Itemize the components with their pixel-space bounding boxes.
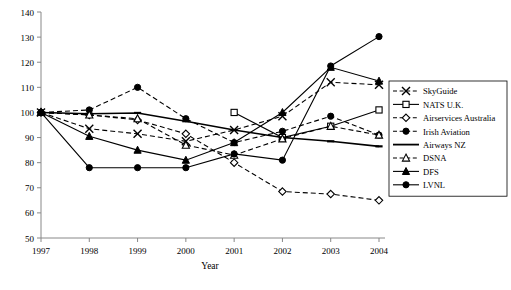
legend-label: Airways NZ [423,140,466,150]
chart-container: 5060708090100110120130140199719981999200… [0,0,511,290]
y-tick-label: 110 [21,83,35,93]
marker-diamond-open [327,190,334,197]
marker-circle-filled [403,128,409,134]
y-tick-label: 130 [21,33,35,43]
legend-label: NATS U.K. [423,100,463,110]
marker-diamond-open [279,188,286,195]
y-tick-label: 140 [21,8,35,18]
x-tick-label: 1999 [129,246,148,256]
legend-label: DFS [423,167,439,177]
legend-label: DSNA [423,153,447,163]
marker-circle-filled [328,113,334,119]
legend-box [389,81,507,196]
x-tick-label: 2002 [273,246,291,256]
legend-label: Airservices Australia [423,113,495,123]
x-tick-label: 2003 [322,246,341,256]
x-axis-title: Year [201,261,219,271]
marker-diamond-open [375,197,382,204]
x-tick-label: 1998 [80,246,99,256]
marker-circle-filled [183,165,189,171]
marker-circle-filled [403,182,409,188]
legend-label: SkyGuide [423,86,458,96]
x-tick-label: 2001 [225,246,243,256]
legend-item-skyguide[interactable]: SkyGuide [393,86,458,96]
marker-square-open [403,101,409,107]
marker-circle-filled [134,165,140,171]
marker-circle-filled [279,128,285,134]
line-chart: 5060708090100110120130140199719981999200… [0,0,511,290]
legend-label: Irish Aviation [423,127,471,137]
x-tick-label: 2000 [177,246,196,256]
marker-circle-filled [279,157,285,163]
y-tick-label: 70 [25,183,35,193]
marker-diamond-open [230,159,237,166]
marker-circle-filled [86,165,92,171]
marker-square-open [376,107,382,113]
marker-triangle-filled [86,132,93,139]
legend-label: LVNL [423,180,445,190]
marker-circle-filled [328,63,334,69]
marker-circle-filled [38,109,44,115]
marker-circle-filled [134,84,140,90]
y-tick-label: 80 [25,158,35,168]
y-tick-label: 90 [25,133,35,143]
y-tick-label: 100 [21,108,35,118]
marker-square-open [231,109,237,115]
marker-circle-filled [231,151,237,157]
marker-diamond-open [182,130,189,137]
y-tick-label: 50 [25,234,35,244]
x-tick-label: 1997 [32,246,51,256]
series-line [41,37,379,168]
x-tick-label: 2004 [370,246,389,256]
marker-circle-filled [376,34,382,40]
y-tick-label: 60 [25,208,35,218]
y-tick-label: 120 [21,58,35,68]
